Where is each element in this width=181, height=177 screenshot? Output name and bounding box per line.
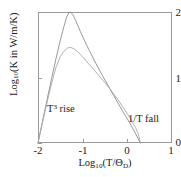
xlabel-close: )	[128, 157, 132, 168]
xtick-label-neg2: -2	[30, 145, 46, 156]
thermal-conductivity-figure: 2 1 0 -2 -1 0 1 T3 rise 1/T fall Log10(K…	[0, 0, 181, 177]
ylabel-base: 10	[12, 72, 20, 79]
annotation-one-over-t-fall: 1/T fall	[128, 113, 159, 124]
xlabel-log: Log	[78, 157, 95, 168]
annot-rise-suffix: rise	[57, 103, 75, 114]
x-axis-label: Log10(T/ΘD)	[38, 157, 172, 170]
xtick-label-1: 1	[163, 145, 179, 156]
ylabel-log: Log	[8, 79, 19, 96]
y-axis-label: Log10(K in W/m/K)	[8, 0, 21, 113]
annot-fall-prefix: 1/T fall	[128, 113, 159, 124]
xtick-label-0: 0	[119, 145, 135, 156]
xtick-label-neg1: -1	[75, 145, 91, 156]
annotation-t-cubed-rise: T3 rise	[47, 103, 75, 114]
xlabel-tail: (T/Θ	[102, 157, 122, 168]
ylabel-tail: (K in W/m/K)	[8, 13, 19, 72]
